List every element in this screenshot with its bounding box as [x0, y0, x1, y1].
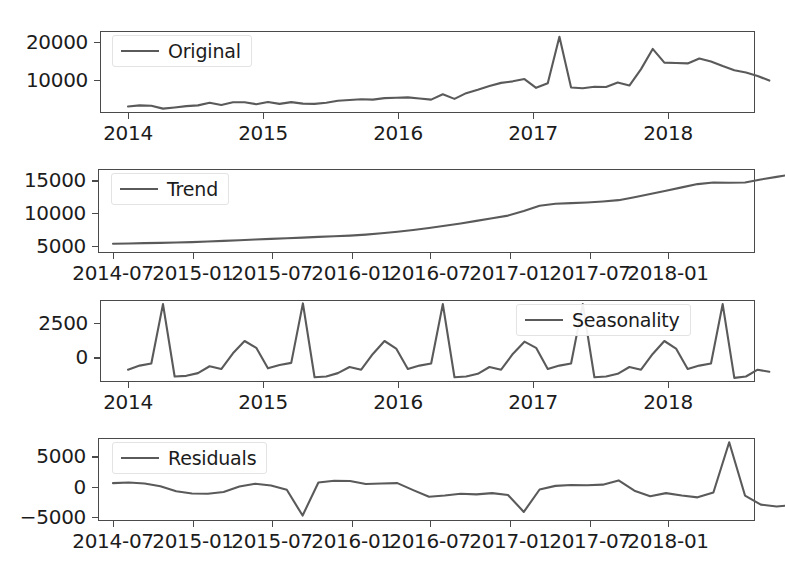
- ytick-label: 0: [0, 345, 88, 369]
- xtick-mark: [352, 521, 353, 527]
- xtick-label: 2014: [103, 390, 153, 414]
- xtick-mark: [272, 253, 273, 259]
- xtick-mark: [272, 521, 273, 527]
- legend-line-icon: [120, 188, 158, 190]
- legend-seasonality: Seasonality: [516, 304, 691, 336]
- xtick-label: 2015: [238, 390, 288, 414]
- xtick-label: 2014-07: [72, 261, 153, 285]
- xtick-label: 2018-01: [627, 529, 708, 553]
- xtick-mark: [128, 113, 129, 119]
- subplot-trend: Trend 15000 10000 5000 2014-07 2015-01 2…: [98, 169, 755, 253]
- ytick-mark: [92, 517, 98, 518]
- xtick-mark: [668, 253, 669, 259]
- legend-label-seasonality: Seasonality: [572, 309, 680, 331]
- ytick-label: −5000: [0, 505, 86, 529]
- subplot-original: Original 20000 10000 2014 2015 2016 2017…: [100, 31, 755, 113]
- xtick-mark: [113, 521, 114, 527]
- xtick-label: 2015-07: [231, 261, 312, 285]
- ytick-mark: [92, 456, 98, 457]
- xtick-mark: [668, 382, 669, 388]
- ytick-mark: [92, 246, 98, 247]
- ytick-mark: [94, 323, 100, 324]
- ytick-label: 10000: [0, 201, 86, 225]
- ytick-label: 15000: [0, 168, 86, 192]
- ytick-mark: [94, 42, 100, 43]
- xtick-label: 2014: [103, 121, 153, 145]
- xtick-mark: [533, 113, 534, 119]
- legend-trend: Trend: [111, 173, 229, 205]
- xtick-mark: [668, 521, 669, 527]
- legend-label-residuals: Residuals: [168, 447, 256, 469]
- xtick-label: 2014-07: [72, 529, 153, 553]
- ytick-label: 2500: [0, 311, 88, 335]
- legend-line-icon: [121, 50, 159, 52]
- ytick-mark: [92, 180, 98, 181]
- ytick-mark: [92, 213, 98, 214]
- legend-line-icon: [525, 319, 563, 321]
- xtick-label: 2017: [508, 390, 558, 414]
- xtick-label: 2016-07: [389, 529, 470, 553]
- xtick-mark: [510, 253, 511, 259]
- xtick-label: 2016: [373, 121, 423, 145]
- ytick-label: 0: [0, 475, 86, 499]
- xtick-label: 2018: [643, 121, 693, 145]
- xtick-mark: [398, 113, 399, 119]
- xtick-label: 2015: [238, 121, 288, 145]
- xtick-label: 2015-07: [231, 529, 312, 553]
- xtick-mark: [430, 521, 431, 527]
- xtick-mark: [352, 253, 353, 259]
- legend-line-icon: [121, 457, 159, 459]
- legend-label-trend: Trend: [167, 178, 218, 200]
- xtick-mark: [398, 382, 399, 388]
- xtick-mark: [668, 113, 669, 119]
- ytick-mark: [94, 80, 100, 81]
- legend-original: Original: [112, 35, 252, 67]
- xtick-mark: [193, 521, 194, 527]
- xtick-mark: [128, 382, 129, 388]
- ytick-label: 10000: [0, 68, 88, 92]
- xtick-label: 2017-01: [469, 529, 550, 553]
- xtick-mark: [263, 113, 264, 119]
- ytick-label: 20000: [0, 30, 88, 54]
- xtick-label: 2017-07: [549, 261, 630, 285]
- ytick-label: 5000: [0, 234, 86, 258]
- xtick-mark: [510, 521, 511, 527]
- decomposition-figure: Original 20000 10000 2014 2015 2016 2017…: [0, 0, 785, 576]
- legend-residuals: Residuals: [112, 442, 267, 474]
- xtick-mark: [590, 521, 591, 527]
- xtick-mark: [430, 253, 431, 259]
- xtick-mark: [263, 382, 264, 388]
- xtick-label: 2015-01: [152, 529, 233, 553]
- xtick-label: 2017-01: [469, 261, 550, 285]
- ytick-label: 5000: [0, 444, 86, 468]
- legend-label-original: Original: [168, 40, 241, 62]
- xtick-mark: [590, 253, 591, 259]
- xtick-label: 2017: [508, 121, 558, 145]
- xtick-label: 2016-07: [389, 261, 470, 285]
- xtick-mark: [113, 253, 114, 259]
- xtick-label: 2015-01: [152, 261, 233, 285]
- subplot-residuals: Residuals 5000 0 −5000 2014-07 2015-01 2…: [98, 438, 755, 521]
- xtick-label: 2018-01: [627, 261, 708, 285]
- xtick-label: 2016: [373, 390, 423, 414]
- ytick-mark: [92, 487, 98, 488]
- xtick-mark: [533, 382, 534, 388]
- ytick-mark: [94, 357, 100, 358]
- xtick-label: 2018: [643, 390, 693, 414]
- xtick-mark: [193, 253, 194, 259]
- xtick-label: 2017-07: [549, 529, 630, 553]
- xtick-label: 2016-01: [311, 529, 392, 553]
- subplot-seasonality: Seasonality 2500 0 2014 2015 2016 2017 2…: [100, 300, 755, 382]
- xtick-label: 2016-01: [311, 261, 392, 285]
